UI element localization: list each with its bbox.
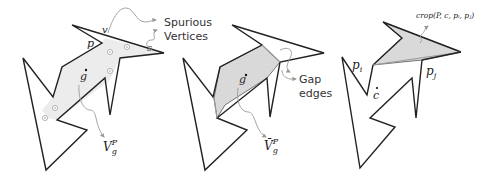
leader-g-to-vis-label xyxy=(237,88,266,137)
leader-v-to-annotation xyxy=(108,8,156,33)
annotation-crop: crop(P, c, pᵢ, pⱼ) xyxy=(416,11,474,20)
label-approx-visibility-polygon: V̄gP xyxy=(264,137,279,155)
label-p: p xyxy=(87,37,94,50)
panel-3: pi pj c crop(P, c, pᵢ, pⱼ) xyxy=(342,11,474,168)
annotation-gap-line1: Gap xyxy=(299,73,321,86)
label-pj: pj xyxy=(426,64,437,80)
label-c: c xyxy=(373,89,379,102)
label-g: g xyxy=(80,70,87,83)
label-v: v xyxy=(102,24,108,35)
panel-2: g V̄gP Gap edges xyxy=(183,25,333,170)
polygon-outline xyxy=(342,57,422,168)
label-visibility-polygon: VgP xyxy=(103,138,118,156)
approx-visibility-region xyxy=(214,45,280,118)
annotation-gap-line2: edges xyxy=(299,87,333,100)
annotation-spurious-line1: Spurious xyxy=(164,16,212,29)
label-pi: pi xyxy=(352,58,363,74)
annotation-spurious-line2: Vertices xyxy=(164,30,208,43)
label-g: g xyxy=(239,73,246,86)
figure-canvas: g v p s VgP Spurious Vertices g xyxy=(0,0,488,182)
panel-1: g v p s VgP Spurious Vertices xyxy=(23,8,212,170)
